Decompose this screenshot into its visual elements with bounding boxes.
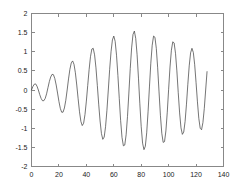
y-tick-label: -1 — [21, 125, 27, 132]
x-tick-label: 140 — [218, 171, 230, 178]
x-tick-label: 40 — [82, 171, 90, 178]
y-tick-label: 2 — [24, 10, 28, 17]
y-tick-label: 0.5 — [18, 67, 28, 74]
y-tick-label: 1 — [24, 48, 28, 55]
x-tick-label: 20 — [55, 171, 63, 178]
y-axis-tick-labels: -2-1.5-1-0.500.511.52 — [15, 10, 27, 170]
x-axis-tick-labels: 020406080100120140 — [30, 171, 230, 178]
x-tick-label: 100 — [163, 171, 175, 178]
y-tick-label: -2 — [21, 163, 27, 170]
axes-box — [32, 14, 224, 167]
x-tick-label: 0 — [30, 171, 34, 178]
y-tick-label: 1.5 — [18, 29, 28, 36]
y-tick-label: -1.5 — [15, 144, 27, 151]
y-tick-label: 0 — [24, 87, 28, 94]
x-tick-label: 120 — [190, 171, 202, 178]
x-tick-label: 60 — [110, 171, 118, 178]
data-series-line — [32, 31, 208, 150]
data-series-group — [32, 31, 208, 150]
figure-container: -2-1.5-1-0.500.511.52 020406080100120140 — [0, 0, 239, 195]
line-chart: -2-1.5-1-0.500.511.52 020406080100120140 — [0, 0, 239, 195]
tick-marks — [32, 14, 224, 167]
x-tick-label: 80 — [137, 171, 145, 178]
y-tick-label: -0.5 — [15, 106, 27, 113]
